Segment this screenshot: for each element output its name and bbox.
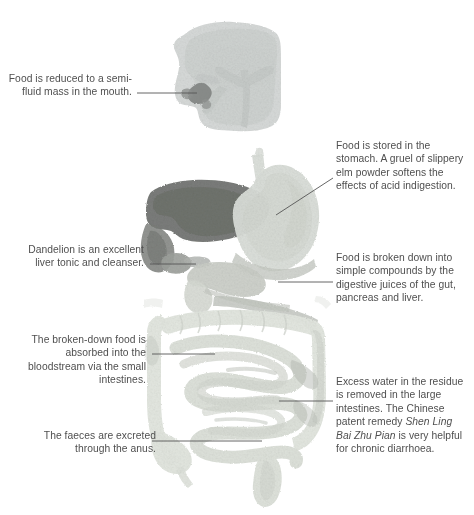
callout-liver: Dandelion is an excellent liver tonic an… [18,243,144,270]
callout-small-intestine: The broken-down food is absorbed into th… [16,333,146,387]
organ-small-intestine [176,341,301,462]
digestive-system-diagram: Food is reduced to a semi-fluid mass in … [0,0,474,515]
callout-breakdown: Food is broken down into simple compound… [336,251,466,305]
organ-stomach [232,165,319,280]
callout-faeces: The faeces are excreted through the anus… [8,429,156,456]
callout-large-intestine: Excess water in the residue is removed i… [336,375,468,455]
callout-mouth: Food is reduced to a semi-fluid mass in … [8,72,132,99]
callout-stomach: Food is stored in the stomach. A gruel o… [336,139,464,193]
